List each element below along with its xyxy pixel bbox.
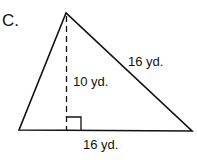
figure-label: C.: [2, 11, 19, 30]
base-label: 16 yd.: [83, 137, 118, 152]
triangle-diagram: C. 10 yd. 16 yd. 16 yd.: [0, 0, 197, 160]
right-angle-marker: [67, 117, 81, 130]
height-label: 10 yd.: [73, 74, 108, 89]
triangle: [19, 13, 192, 131]
side-label: 16 yd.: [128, 54, 163, 69]
